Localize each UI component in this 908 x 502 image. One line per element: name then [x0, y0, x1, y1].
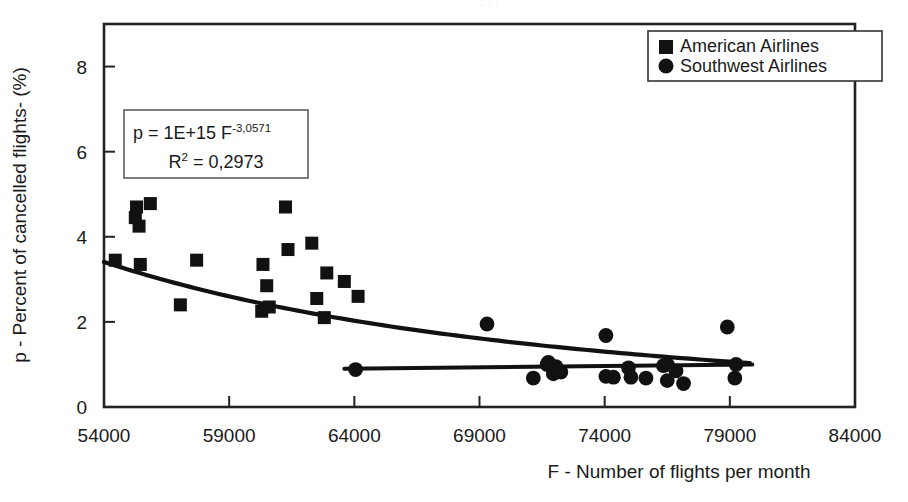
data-point-american-9 [260, 279, 273, 292]
data-point-southwest-13 [639, 371, 654, 386]
y-tick-label-6: 6 [76, 142, 87, 163]
x-tick-label-74000: 74000 [578, 425, 631, 446]
data-point-southwest-20 [729, 357, 744, 372]
data-point-southwest-17 [669, 363, 684, 378]
x-tick-label-69000: 69000 [453, 425, 506, 446]
x-tick-label-79000: 79000 [703, 425, 756, 446]
y-axis-tick-labels: 02468 [76, 57, 87, 418]
top-scan-artifact: · · · [340, 0, 640, 8]
scatter-plot-svg: 02468 5400059000640006900074000790008400… [0, 0, 908, 502]
y-tick-label-4: 4 [76, 227, 87, 248]
legend-label-southwest-airlines: Southwest Airlines [680, 56, 827, 76]
data-point-american-5 [134, 258, 147, 271]
y-tick-label-2: 2 [76, 312, 87, 333]
legend-label-american-airlines: American Airlines [680, 36, 819, 56]
data-point-american-7 [190, 254, 203, 267]
data-point-southwest-2 [526, 371, 541, 386]
data-point-american-4 [144, 197, 157, 210]
data-point-southwest-1 [480, 317, 495, 332]
x-tick-label-54000: 54000 [78, 425, 131, 446]
chart-figure: · · · 02468 5400059000640006900074000790… [0, 0, 908, 502]
data-point-southwest-19 [720, 320, 735, 335]
data-point-southwest-10 [606, 370, 621, 385]
x-axis-tick-labels: 54000590006400069000740007900084000 [78, 425, 882, 446]
data-point-southwest-21 [727, 371, 742, 386]
legend-marker-circle-icon [659, 59, 674, 74]
data-point-american-19 [352, 290, 365, 303]
y-tick-label-0: 0 [76, 397, 87, 418]
x-axis-title: F - Number of flights per month [548, 461, 811, 482]
data-point-southwest-18 [676, 376, 691, 391]
regression-annotation: p = 1E+15 F-3,0571 R2 = 0,2973 [124, 110, 308, 178]
data-point-american-16 [310, 292, 323, 305]
data-point-southwest-0 [348, 362, 363, 377]
x-tick-label-84000: 84000 [829, 425, 882, 446]
data-point-american-6 [174, 298, 187, 311]
y-axis-title: p - Percent of cancelled flights- (%) [9, 67, 30, 363]
data-point-southwest-7 [553, 365, 568, 380]
data-point-american-17 [318, 311, 331, 324]
data-point-american-13 [281, 243, 294, 256]
legend-marker-square-icon [659, 40, 673, 54]
data-point-american-11 [263, 300, 276, 313]
chart-legend: American Airlines Southwest Airlines [648, 31, 882, 81]
data-point-southwest-12 [624, 370, 639, 385]
y-tick-label-8: 8 [76, 57, 87, 78]
x-tick-label-59000: 59000 [203, 425, 256, 446]
data-point-american-15 [320, 266, 333, 279]
data-point-american-3 [133, 220, 146, 233]
data-point-american-0 [109, 254, 122, 267]
data-point-american-8 [256, 258, 269, 271]
data-point-american-14 [305, 237, 318, 250]
x-tick-label-64000: 64000 [328, 425, 381, 446]
data-point-southwest-8 [599, 328, 614, 343]
data-point-american-18 [338, 275, 351, 288]
data-point-american-12 [279, 200, 292, 213]
